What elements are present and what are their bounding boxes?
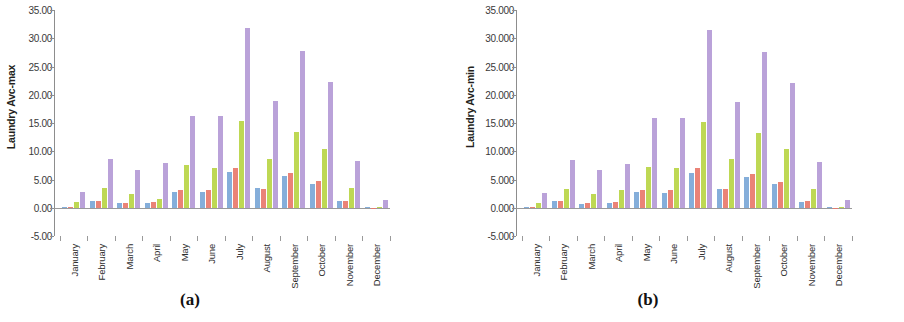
bar-series2 [530,207,535,208]
x-tick-label: March [585,244,596,269]
x-tick-label: February [96,244,107,280]
bar-group [60,10,88,208]
bar-groups [60,10,390,208]
bar-series4 [108,159,113,208]
bar-series2 [288,173,293,208]
bar-series1 [255,188,260,208]
bar-series4 [355,161,360,208]
bar-series4 [300,51,305,208]
bar-series4 [273,101,278,208]
x-tick-label: July [695,244,706,260]
x-tick-label: November [805,244,816,286]
x-tick-label: July [233,244,244,260]
bar-series1 [117,203,122,208]
bar-series2 [68,207,73,208]
bar-series3 [729,159,734,208]
x-tick-label: August [723,244,734,272]
bar-group [522,10,550,208]
bar-series4 [735,102,740,208]
bar-series4 [597,170,602,208]
bar-series3 [646,167,651,208]
bar-series1 [365,207,370,208]
bar-groups [522,10,852,208]
bar-series2 [723,189,728,208]
y-tick-mark [50,38,54,39]
bar-series3 [701,122,706,208]
bar-group [797,10,825,208]
bar-series2 [695,168,700,208]
plot-area: JanuaryFebruaryMarchAprilMayJuneJulyAugu… [60,10,390,236]
bar-group [687,10,715,208]
bar-series2 [178,190,183,208]
y-axis-line [516,10,517,236]
bar-series1 [172,192,177,208]
y-axis-ticks: 35.0030.0025.0020.0015.0010.005.000.00-5… [0,0,52,240]
y-tick-mark [50,236,54,237]
bar-series3 [212,168,217,208]
bar-series1 [282,176,287,208]
y-tick-mark [50,10,54,11]
bar-series3 [377,207,382,208]
y-tick-label: 15.00 [28,118,52,129]
bar-series1 [337,201,342,208]
bar-series1 [772,184,777,208]
x-axis-baseline [54,208,390,209]
bar-series2 [123,203,128,208]
bar-series4 [762,52,767,208]
bar-group [88,10,116,208]
bar-series3 [129,194,134,208]
bar-series3 [619,190,624,208]
bar-series2 [371,208,376,209]
x-tick-label: September [288,244,299,289]
bar-series3 [294,132,299,208]
y-tick-mark [512,180,516,181]
bar-series1 [662,193,667,208]
panel-a: Laundry Avc-max35.0030.0025.0020.0015.00… [0,0,452,322]
x-tick-label: October [778,244,789,276]
bar-series3 [102,188,107,208]
bar-series4 [652,118,657,209]
y-tick-mark [512,38,516,39]
y-tick-label: -5.000 [487,231,514,242]
x-tick-label: September [750,244,761,289]
bar-group [550,10,578,208]
bar-series3 [756,133,761,208]
y-axis-ticks: 35.00030.00025.00020.00015.00010.0005.00… [452,0,514,240]
bar-group [715,10,743,208]
x-tick-label: May [640,244,651,261]
bar-series1 [827,207,832,208]
bar-series4 [845,200,850,208]
x-tick-label: February [558,244,569,280]
bar-group [632,10,660,208]
bar-series1 [717,189,722,208]
bar-group [742,10,770,208]
bar-series1 [524,207,529,208]
bar-series2 [316,181,321,208]
bar-series4 [245,28,250,208]
panel-b: Laundry Avc-min35.00030.00025.00020.0001… [452,0,904,322]
bar-series2 [613,202,618,208]
x-tick-label: April [613,244,624,262]
bar-group [335,10,363,208]
bar-series3 [811,189,816,208]
y-tick-mark [512,236,516,237]
bar-series1 [689,173,694,208]
bar-series1 [90,201,95,208]
x-tick-label: August [261,244,272,272]
bar-series1 [744,177,749,208]
bar-series2 [558,201,563,208]
y-tick-label: 35.000 [485,5,514,16]
panel-caption: (a) [0,290,416,310]
bar-series4 [542,193,547,208]
y-tick-label: 35.00 [28,5,52,16]
bar-series2 [206,190,211,208]
y-tick-mark [512,10,516,11]
bar-group [198,10,226,208]
bar-group [280,10,308,208]
y-tick-label: 30.00 [28,33,52,44]
bar-series1 [579,204,584,208]
bar-series4 [383,200,388,208]
bar-series4 [625,164,630,208]
bar-series2 [833,208,838,209]
bar-series3 [674,168,679,208]
